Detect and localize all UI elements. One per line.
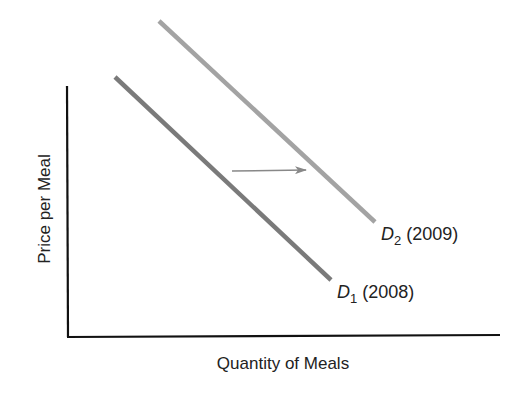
d1-label: D1(2008)	[337, 282, 414, 306]
demand-curve-d1	[115, 77, 331, 280]
y-axis	[67, 86, 68, 337]
demand-curve-d2	[159, 21, 375, 222]
x-axis-label: Quantity of Meals	[217, 354, 349, 373]
y-axis-label: Price per Meal	[35, 154, 54, 264]
shift-arrow-icon	[232, 170, 306, 171]
x-axis	[67, 335, 500, 337]
d2-label: D2(2009)	[381, 224, 458, 248]
demand-shift-diagram: D2(2009) D1(2008) Price per Meal Quantit…	[0, 0, 528, 395]
